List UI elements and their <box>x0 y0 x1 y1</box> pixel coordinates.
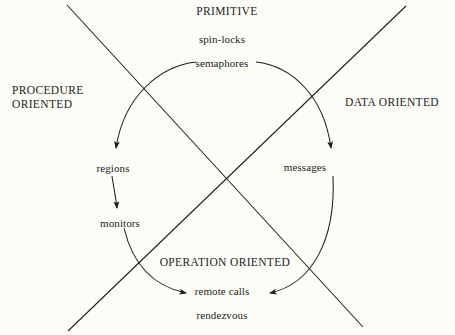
axis-label-procedure-oriented: PROCEDURE ORIENTED <box>12 84 84 111</box>
axis-label-operation-oriented: OPERATION ORIENTED <box>160 256 291 270</box>
term-semaphores: semaphores <box>196 57 249 70</box>
axis-label-procedure-line1: PROCEDURE <box>12 84 84 98</box>
term-messages: messages <box>284 161 326 174</box>
arrow-semaphores-to-messages <box>256 62 331 148</box>
axis-label-primitive: PRIMITIVE <box>196 5 257 19</box>
term-regions: regions <box>96 162 129 175</box>
arrow-messages-to-remote-calls <box>270 176 333 293</box>
arrow-regions-to-monitors <box>112 176 117 208</box>
diagram-canvas: PRIMITIVE PROCEDURE ORIENTED DATA ORIENT… <box>0 0 455 335</box>
axis-label-procedure-line2: ORIENTED <box>12 98 84 112</box>
term-rendezvous: rendezvous <box>196 309 247 322</box>
arrow-semaphores-to-regions <box>116 62 196 148</box>
term-monitors: monitors <box>100 217 140 230</box>
term-remote-calls: remote calls <box>195 285 250 298</box>
term-spin-locks: spin-locks <box>199 33 245 46</box>
axis-label-data-oriented: DATA ORIENTED <box>345 96 439 110</box>
